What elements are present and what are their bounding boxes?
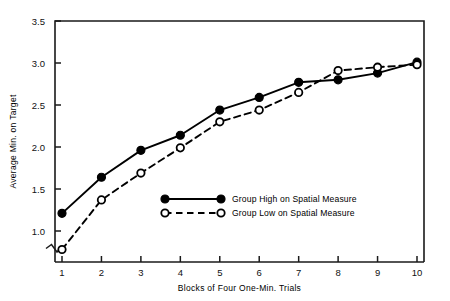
x-tick-label-6: 6 bbox=[257, 267, 262, 278]
y-tick-label-3.0: 3.0 bbox=[32, 58, 45, 69]
data-point-low-block-7[interactable]: Group Low on Spatial Measure — Block 7: … bbox=[295, 89, 302, 96]
legend-marker-high-end bbox=[217, 195, 225, 203]
plot-frame bbox=[55, 21, 424, 262]
data-point-high-block-2[interactable]: Group High on Spatial Measure — Block 2:… bbox=[97, 173, 105, 181]
data-point-high-block-7[interactable]: Group High on Spatial Measure — Block 7:… bbox=[295, 78, 303, 86]
legend-label-low: Group Low on Spatial Measure bbox=[232, 208, 355, 218]
line-chart: 1.01.52.02.53.03.512345678910Group High … bbox=[0, 0, 450, 301]
x-tick-label-3: 3 bbox=[138, 267, 143, 278]
legend-marker-low-start bbox=[161, 209, 168, 216]
data-point-low-block-8[interactable]: Group Low on Spatial Measure — Block 8: … bbox=[334, 67, 341, 74]
series-line-low bbox=[62, 65, 417, 250]
data-point-low-block-9[interactable]: Group Low on Spatial Measure — Block 9: … bbox=[374, 63, 381, 70]
data-point-low-block-4[interactable]: Group Low on Spatial Measure — Block 4: … bbox=[177, 144, 184, 151]
legend-marker-high-start bbox=[161, 195, 169, 203]
data-point-high-block-6[interactable]: Group High on Spatial Measure — Block 6:… bbox=[255, 93, 263, 101]
x-tick-label-2: 2 bbox=[99, 267, 104, 278]
legend-marker-low-end bbox=[217, 209, 224, 216]
y-axis-title: Average Min. on Target bbox=[8, 94, 18, 189]
data-point-low-block-6[interactable]: Group Low on Spatial Measure — Block 6: … bbox=[256, 106, 263, 113]
x-tick-label-7: 7 bbox=[296, 267, 301, 278]
x-tick-label-4: 4 bbox=[178, 267, 183, 278]
x-tick-label-1: 1 bbox=[59, 267, 64, 278]
data-point-low-block-3[interactable]: Group Low on Spatial Measure — Block 3: … bbox=[137, 169, 144, 176]
data-point-high-block-5[interactable]: Group High on Spatial Measure — Block 5:… bbox=[216, 106, 224, 114]
y-tick-label-2.0: 2.0 bbox=[32, 142, 45, 153]
y-tick-label-3.5: 3.5 bbox=[32, 16, 45, 27]
x-tick-label-8: 8 bbox=[335, 267, 340, 278]
data-point-high-block-8[interactable]: Group High on Spatial Measure — Block 8:… bbox=[334, 76, 342, 84]
x-tick-label-9: 9 bbox=[375, 267, 380, 278]
data-point-low-block-2[interactable]: Group Low on Spatial Measure — Block 2: … bbox=[98, 196, 105, 203]
x-axis-title: Blocks of Four One-Min. Trials bbox=[178, 283, 301, 293]
chart-figure: 1.01.52.02.53.03.512345678910Group High … bbox=[0, 0, 450, 301]
x-tick-label-5: 5 bbox=[217, 267, 222, 278]
legend-label-high: Group High on Spatial Measure bbox=[232, 194, 357, 204]
y-tick-label-1.5: 1.5 bbox=[32, 184, 45, 195]
y-tick-label-2.5: 2.5 bbox=[32, 100, 45, 111]
data-point-high-block-3[interactable]: Group High on Spatial Measure — Block 3:… bbox=[137, 146, 145, 154]
data-point-high-block-1[interactable]: Group High on Spatial Measure — Block 1:… bbox=[58, 209, 66, 217]
data-point-low-block-10[interactable]: Group Low on Spatial Measure — Block 10:… bbox=[413, 61, 420, 68]
data-point-low-block-5[interactable]: Group Low on Spatial Measure — Block 5: … bbox=[216, 118, 223, 125]
data-point-low-block-1[interactable]: Group Low on Spatial Measure — Block 1: … bbox=[58, 246, 65, 253]
data-point-high-block-4[interactable]: Group High on Spatial Measure — Block 4:… bbox=[176, 131, 184, 139]
y-tick-label-1.0: 1.0 bbox=[32, 226, 45, 237]
x-tick-label-10: 10 bbox=[412, 267, 423, 278]
